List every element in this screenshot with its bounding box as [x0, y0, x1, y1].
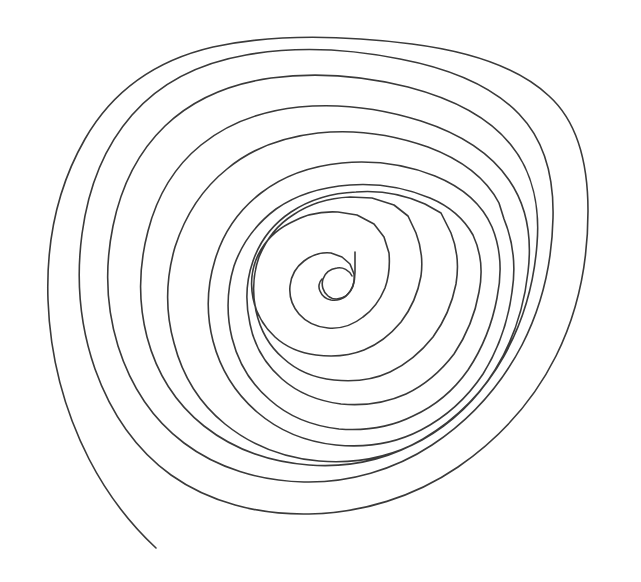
spiral-drawing — [0, 0, 641, 582]
drawing-canvas — [0, 0, 641, 582]
